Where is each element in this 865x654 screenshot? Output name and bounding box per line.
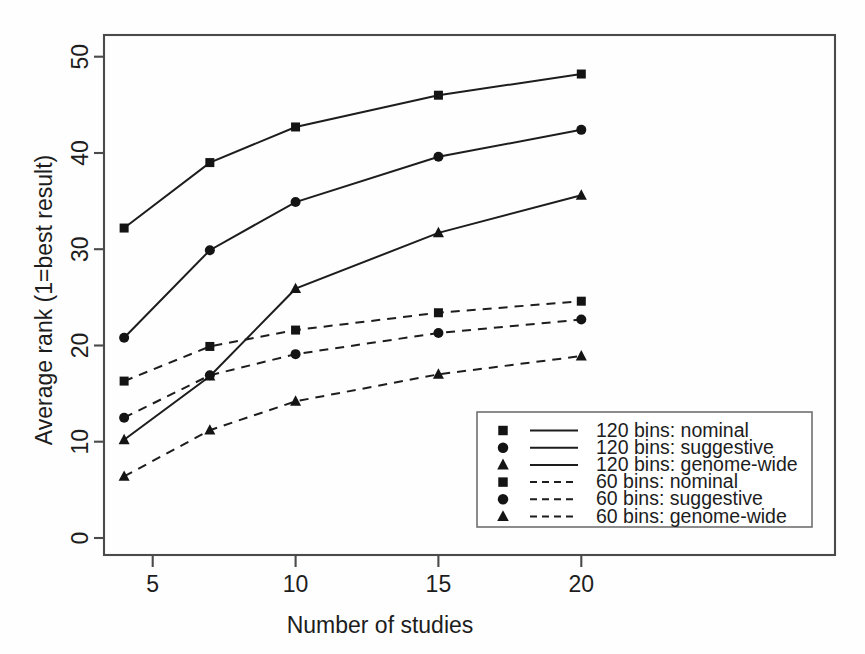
series-line: [124, 130, 581, 338]
x-tick-label-20: 20: [569, 571, 595, 597]
x-axis-tick-labels: 5 10 15 20: [146, 571, 594, 597]
data-point-marker: [119, 413, 129, 423]
y-tick-label-40: 40: [67, 140, 93, 166]
y-tick-label-10: 10: [67, 429, 93, 455]
y-axis-title: Average rank (1=best result): [31, 155, 57, 445]
square-marker-icon: [498, 426, 507, 435]
data-point-marker: [576, 314, 586, 324]
series-line: [124, 319, 581, 417]
data-point-marker: [433, 328, 443, 338]
series-2: [119, 125, 586, 343]
data-point-marker: [120, 224, 129, 233]
data-point-marker: [433, 152, 443, 162]
data-point-marker: [205, 370, 215, 380]
data-point-marker: [119, 434, 130, 444]
data-point-marker: [291, 349, 301, 359]
series-5: [119, 314, 586, 422]
data-point-marker: [119, 333, 129, 343]
series-1: [120, 70, 586, 233]
series-line: [124, 74, 581, 228]
y-tick-label-50: 50: [67, 44, 93, 70]
chart-figure: 0 10 20 30 40 50 Average rank (1=best re…: [0, 0, 865, 654]
line-chart-canvas: 0 10 20 30 40 50 Average rank (1=best re…: [0, 0, 865, 654]
data-point-marker: [205, 158, 214, 167]
legend-entry-label: 60 bins: genome-wide: [596, 505, 787, 527]
series-line: [124, 301, 581, 381]
data-point-marker: [577, 297, 586, 306]
y-axis-ticks: [94, 57, 104, 538]
series-line: [124, 195, 581, 440]
y-tick-label-30: 30: [67, 236, 93, 262]
y-tick-label-0: 0: [67, 532, 93, 545]
x-tick-label-15: 15: [426, 571, 452, 597]
y-axis-tick-labels: 0 10 20 30 40 50: [67, 44, 93, 544]
circle-marker-icon: [498, 442, 509, 453]
data-point-marker: [576, 350, 587, 360]
y-tick-label-20: 20: [67, 333, 93, 359]
data-point-marker: [434, 91, 443, 100]
data-point-marker: [120, 377, 129, 386]
x-tick-label-5: 5: [146, 571, 159, 597]
data-point-marker: [205, 245, 215, 255]
data-point-marker: [119, 470, 130, 480]
series-3: [119, 189, 587, 444]
data-point-marker: [205, 342, 214, 351]
data-point-marker: [434, 308, 443, 317]
chart-legend: 120 bins: nominal120 bins: suggestive120…: [477, 412, 812, 527]
data-point-marker: [291, 326, 300, 335]
data-point-marker: [291, 197, 301, 207]
circle-marker-icon: [498, 494, 509, 505]
data-point-marker: [576, 125, 586, 135]
x-axis-ticks: [153, 555, 582, 567]
series-4: [120, 297, 586, 386]
data-point-marker: [576, 189, 587, 199]
x-axis-title: Number of studies: [287, 612, 474, 638]
data-point-marker: [290, 395, 301, 405]
data-point-marker: [577, 70, 586, 79]
square-marker-icon: [498, 477, 507, 486]
x-tick-label-10: 10: [283, 571, 309, 597]
data-point-marker: [291, 122, 300, 131]
